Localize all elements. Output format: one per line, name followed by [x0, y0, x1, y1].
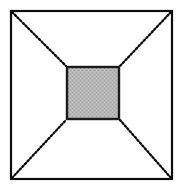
inner-shaded-square [67, 67, 119, 119]
geometric-figure-svg [0, 0, 182, 189]
figure-canvas [0, 0, 182, 189]
